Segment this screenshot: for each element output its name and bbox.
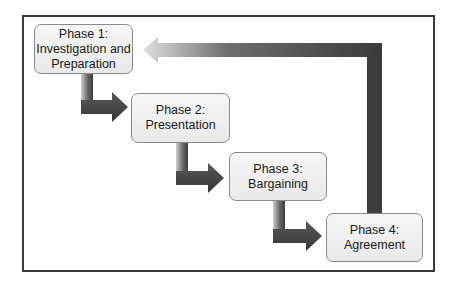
phase-2-name: Presentation [145, 118, 215, 133]
arrow-phase3-to-phase4 [273, 200, 322, 251]
phase-3-box: Phase 3: Bargaining [229, 152, 327, 201]
phase-1-box: Phase 1: Investigation and Preparation [34, 24, 133, 74]
phase-1-title: Phase 1: [59, 27, 108, 42]
phase-4-name: Agreement [344, 238, 405, 253]
phase-3-title: Phase 3: [253, 162, 302, 177]
arrow-phase2-to-phase3 [176, 143, 224, 193]
phase-2-box: Phase 2: Presentation [131, 93, 230, 143]
phase-2-title: Phase 2: [156, 103, 205, 118]
phase-4-title: Phase 4: [350, 223, 399, 238]
phase-3-name: Bargaining [248, 177, 308, 192]
phase-4-box: Phase 4: Agreement [326, 213, 423, 262]
phase-1-name-line-1: Investigation and [36, 42, 131, 57]
arrow-phase1-to-phase2 [81, 73, 128, 122]
phase-1-name-line-2: Preparation [51, 57, 116, 72]
